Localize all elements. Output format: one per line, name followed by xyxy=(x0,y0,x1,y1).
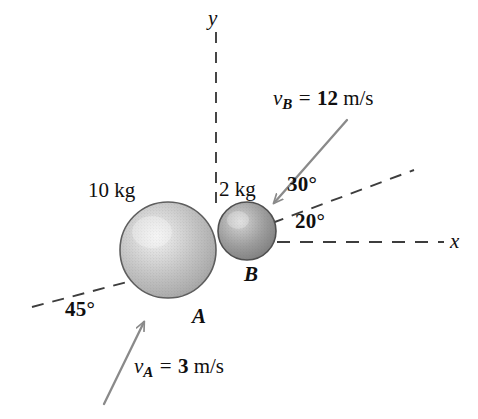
body-label-a: A xyxy=(192,306,206,327)
angle-label-20: 20° xyxy=(295,211,325,232)
sphere-b xyxy=(218,202,276,260)
velocity-label-a: vA = 3 m/s xyxy=(134,356,224,380)
axis-label-y: y xyxy=(208,8,217,29)
velocity-label-b: vB = 12 m/s xyxy=(273,88,374,112)
angle-label-30: 30° xyxy=(287,174,317,195)
velocity-unit-a: m/s xyxy=(194,354,224,378)
velocity-equals-a: = xyxy=(159,354,173,378)
velocity-magnitude-b: 12 xyxy=(317,86,338,110)
velocity-symbol-a: v xyxy=(134,354,143,378)
velocity-unit-b: m/s xyxy=(343,86,373,110)
velocity-magnitude-a: 3 xyxy=(178,354,189,378)
sphere-a xyxy=(120,202,216,298)
axis-label-x: x xyxy=(450,231,459,252)
impact-diagram: y x 10 kg 2 kg A B 45° 30° 20° vB = 12 m… xyxy=(0,0,478,419)
diagram-canvas xyxy=(0,0,478,419)
mass-label-a: 10 kg xyxy=(88,180,135,201)
mass-label-b: 2 kg xyxy=(219,179,256,200)
velocity-equals-b: = xyxy=(298,86,312,110)
velocity-subscript-a: A xyxy=(143,364,153,380)
angle-label-45: 45° xyxy=(65,299,95,320)
velocity-subscript-b: B xyxy=(282,96,292,112)
body-label-b: B xyxy=(244,264,258,285)
velocity-symbol-b: v xyxy=(273,86,282,110)
